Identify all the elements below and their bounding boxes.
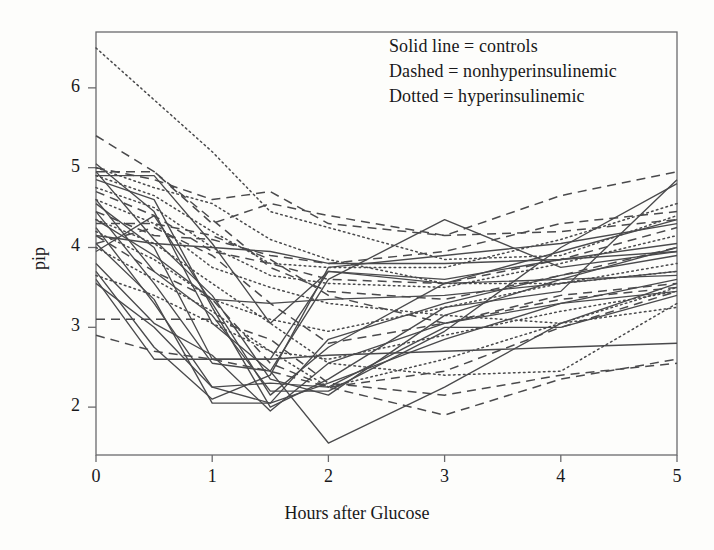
x-axis-title: Hours after Glucose (0, 503, 714, 524)
y-axis-title: pip (29, 214, 50, 304)
spaghetti-chart: Solid line = controls Dashed = nonhyperi… (0, 0, 714, 550)
x-tick-label: 4 (541, 466, 581, 487)
series-line-dashed (96, 335, 677, 415)
series-line-solid (96, 184, 677, 392)
y-tick-label: 5 (50, 156, 80, 177)
x-tick-label: 0 (76, 466, 116, 487)
series-line-dashed (96, 136, 677, 236)
y-tick-label: 3 (50, 315, 80, 336)
x-tick-label: 3 (425, 466, 465, 487)
series-line-dashed (96, 168, 677, 236)
chart-legend: Solid line = controls Dashed = nonhyperi… (389, 34, 617, 109)
y-tick-label: 6 (50, 76, 80, 97)
series-line-solid (96, 212, 677, 372)
x-tick-label: 5 (657, 466, 697, 487)
legend-entry-solid: Solid line = controls (389, 34, 617, 59)
x-tick-label: 2 (308, 466, 348, 487)
x-tick-label: 1 (192, 466, 232, 487)
series-line-solid (96, 216, 677, 396)
y-tick-label: 2 (50, 395, 80, 416)
legend-entry-dotted: Dotted = hyperinsulinemic (389, 84, 617, 109)
legend-entry-dashed: Dashed = nonhyperinsulinemic (389, 59, 617, 84)
y-tick-label: 4 (50, 235, 80, 256)
